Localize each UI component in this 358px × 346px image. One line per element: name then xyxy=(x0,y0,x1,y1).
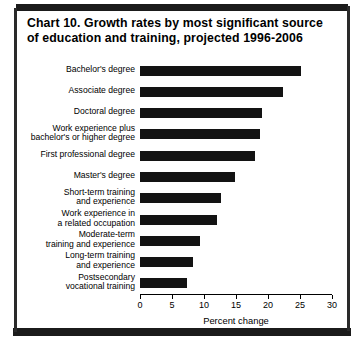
frame-border-top xyxy=(16,4,348,11)
bar-category-label: Bachelor's degree xyxy=(20,65,135,75)
bar xyxy=(140,257,193,267)
x-axis-tick xyxy=(268,295,269,299)
x-axis-tick xyxy=(204,295,205,299)
bar-category-label: Doctoral degree xyxy=(20,107,135,117)
x-axis-tick xyxy=(140,295,141,299)
x-axis-tick xyxy=(236,295,237,299)
x-axis-tick xyxy=(300,295,301,299)
bar xyxy=(140,215,217,225)
chart-figure: Chart 10. Growth rates by most significa… xyxy=(0,0,358,346)
frame-border-right xyxy=(347,6,350,331)
bar xyxy=(140,278,187,288)
bar xyxy=(140,236,200,246)
frame-border-bottom xyxy=(13,328,351,336)
bar-category-label: Short-term training and experience xyxy=(20,188,135,207)
x-axis-tick xyxy=(332,295,333,299)
x-axis-tick-label: 10 xyxy=(199,300,209,310)
bar xyxy=(140,151,255,161)
chart-title: Chart 10. Growth rates by most significa… xyxy=(27,16,342,46)
bar-category-label: Moderate-term training and experience xyxy=(20,230,135,249)
bar xyxy=(140,172,235,182)
x-axis-tick-label: 20 xyxy=(263,300,273,310)
x-axis-label: Percent change xyxy=(140,315,332,326)
x-axis-tick-label: 0 xyxy=(137,300,142,310)
chart-title-line-2: of education and training, projected 199… xyxy=(27,31,342,46)
bar xyxy=(140,129,260,139)
bar xyxy=(140,108,262,118)
chart-inner-panel: Chart 10. Growth rates by most significa… xyxy=(17,11,347,328)
x-axis-tick-label: 5 xyxy=(169,300,174,310)
bar xyxy=(140,193,221,203)
bar-category-label: Long-term training and experience xyxy=(20,251,135,270)
chart-title-line-1: Chart 10. Growth rates by most significa… xyxy=(27,16,323,30)
x-axis-tick xyxy=(172,295,173,299)
bar-category-label: First professional degree xyxy=(20,150,135,160)
bar-category-label: Master's degree xyxy=(20,171,135,181)
bar xyxy=(140,66,301,76)
bar-category-label: Associate degree xyxy=(20,86,135,96)
bar-category-label: Work experience in a related occupation xyxy=(20,209,135,228)
bar-category-label: Postsecondary vocational training xyxy=(20,273,135,292)
bar xyxy=(140,87,283,97)
bar-category-label: Work experience plus bachelor's or highe… xyxy=(20,124,135,143)
x-axis-tick-label: 30 xyxy=(327,300,337,310)
x-axis-tick-label: 15 xyxy=(231,300,241,310)
x-axis-tick-label: 25 xyxy=(295,300,305,310)
plot-area: Bachelor's degreeAssociate degreeDoctora… xyxy=(17,56,347,304)
